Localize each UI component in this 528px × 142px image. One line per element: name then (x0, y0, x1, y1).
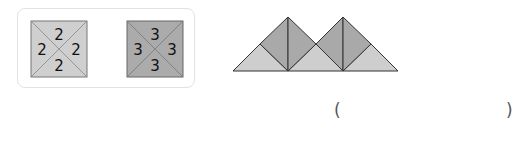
answer-blank[interactable] (350, 100, 500, 120)
triangle-figure (233, 17, 398, 71)
diagram-canvas: 2 2 2 2 3 3 3 3 (0, 0, 528, 142)
tile-two: 2 2 2 2 (31, 21, 87, 77)
tile-two-top: 2 (54, 26, 64, 44)
tile-three-left: 3 (133, 41, 143, 59)
close-paren: ) (506, 100, 513, 120)
tile-three-top: 3 (150, 26, 160, 44)
tile-three: 3 3 3 3 (127, 21, 183, 77)
tile-two-right: 2 (71, 41, 81, 59)
open-paren: ( (334, 100, 341, 120)
tile-two-left: 2 (37, 41, 47, 59)
tile-three-bottom: 3 (150, 57, 160, 75)
tile-two-bottom: 2 (54, 57, 64, 75)
tile-three-right: 3 (167, 41, 177, 59)
